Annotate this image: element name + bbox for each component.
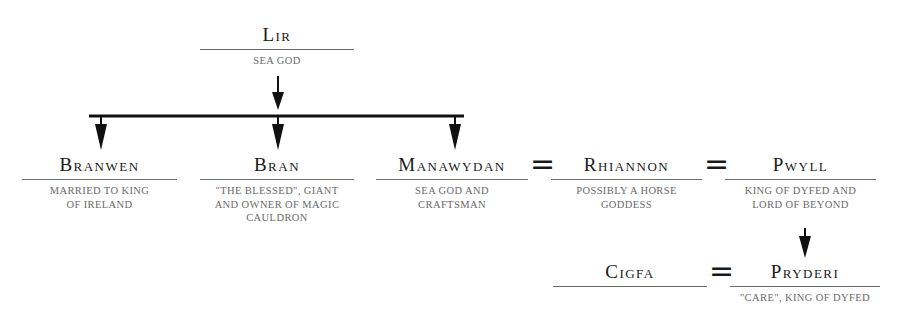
node-branwen: Branwen Married to king of Ireland [22, 154, 177, 211]
divider [200, 49, 354, 50]
desc-line: of Ireland [22, 198, 177, 212]
divider [551, 179, 702, 180]
divider [553, 286, 707, 287]
node-name: Lir [200, 24, 354, 46]
arrow-down-icon [272, 76, 284, 110]
node-bran: Bran "The blessed", giant and owner of m… [200, 154, 354, 225]
node-desc: "The blessed", giant and owner of magic … [200, 184, 354, 225]
node-desc: Married to king of Ireland [22, 184, 177, 211]
node-name: Pryderi [730, 261, 880, 283]
node-name: Rhiannon [551, 154, 702, 176]
node-desc: Possibly a horse goddess [551, 184, 702, 211]
node-name: Manawydan [376, 154, 528, 176]
desc-line: lord of Beyond [725, 198, 876, 212]
node-name: Branwen [22, 154, 177, 176]
divider [725, 179, 876, 180]
node-pryderi: Pryderi "Care", king of Dyfed [730, 261, 880, 305]
node-desc: "Care", king of Dyfed [730, 291, 880, 305]
node-cigfa: Cigfa [553, 261, 707, 287]
desc-line: Married to king [22, 184, 177, 198]
desc-line: cauldron [200, 211, 354, 225]
node-name: Pwyll [725, 154, 876, 176]
divider [22, 179, 177, 180]
desc-line: craftsman [376, 198, 528, 212]
node-name: Bran [200, 154, 354, 176]
desc-line: "The blessed", giant [200, 184, 354, 198]
node-lir: Lir Sea god [200, 24, 354, 68]
arrow-down-icon [272, 116, 284, 150]
node-desc: Sea god and craftsman [376, 184, 528, 211]
desc-line: King of Dyfed and [725, 184, 876, 198]
node-rhiannon: Rhiannon Possibly a horse goddess [551, 154, 702, 211]
node-manawydan: Manawydan Sea god and craftsman [376, 154, 528, 211]
desc-line: Possibly a horse [551, 184, 702, 198]
arrow-down-icon [449, 116, 461, 150]
node-name: Cigfa [553, 261, 707, 283]
node-desc: Sea god [200, 54, 354, 68]
node-desc: King of Dyfed and lord of Beyond [725, 184, 876, 211]
arrow-down-icon [799, 228, 811, 258]
node-pwyll: Pwyll King of Dyfed and lord of Beyond [725, 154, 876, 211]
desc-line: Sea god and [376, 184, 528, 198]
desc-line: goddess [551, 198, 702, 212]
arrow-down-icon [95, 116, 107, 150]
desc-line: and owner of magic [200, 198, 354, 212]
divider [730, 286, 880, 287]
divider [200, 179, 354, 180]
divider [376, 179, 528, 180]
